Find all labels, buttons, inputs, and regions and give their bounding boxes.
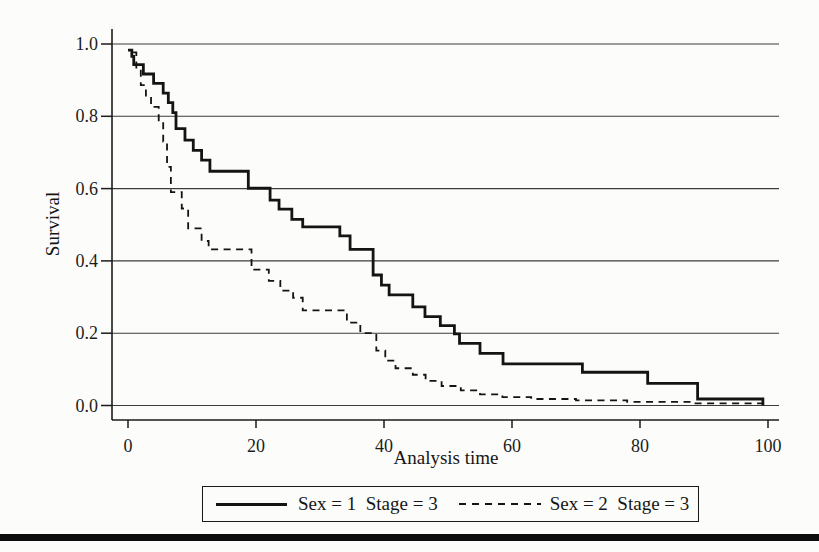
x-tick-label: 60 xyxy=(503,436,521,456)
solid-line-sample xyxy=(216,503,287,506)
scanned-figure-page: 0.00.20.40.60.81.0020406080100 Survival … xyxy=(0,0,819,552)
dashed-line-sample xyxy=(459,503,541,505)
survival-chart: 0.00.20.40.60.81.0020406080100 Survival … xyxy=(0,0,819,552)
axes xyxy=(101,29,779,428)
legend-label-sex2-stage3: Sex = 2 Stage = 3 xyxy=(550,493,690,515)
x-tick-label: 20 xyxy=(247,436,265,456)
y-axis-title: Survival xyxy=(42,192,63,256)
survival-curves xyxy=(128,50,768,405)
y-tick-label: 0.4 xyxy=(76,251,99,271)
x-tick-label: 80 xyxy=(631,436,649,456)
y-tick-label: 0.8 xyxy=(76,106,99,126)
curve-sex1-stage3 xyxy=(128,50,763,405)
page-bottom-rule xyxy=(0,534,819,541)
x-tick-label: 100 xyxy=(755,436,782,456)
y-tick-label: 0.2 xyxy=(76,323,99,343)
y-tick-label: 0.6 xyxy=(76,179,99,199)
y-tick-label: 1.0 xyxy=(76,34,99,54)
x-tick-label: 40 xyxy=(375,436,393,456)
gridlines xyxy=(112,44,779,406)
x-tick-label: 0 xyxy=(124,436,133,456)
legend-label-sex1-stage3: Sex = 1 Stage = 3 xyxy=(298,493,438,515)
tick-labels: 0.00.20.40.60.81.0020406080100 xyxy=(76,34,782,456)
legend: Sex = 1 Stage = 3 Sex = 2 Stage = 3 xyxy=(202,486,699,522)
y-tick-label: 0.0 xyxy=(76,396,99,416)
x-axis-title: Analysis time xyxy=(393,447,498,468)
curve-sex2-stage3 xyxy=(133,52,768,403)
